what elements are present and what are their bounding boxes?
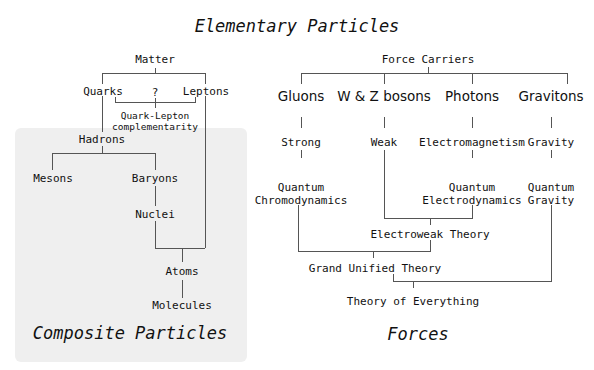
node-atoms: Atoms xyxy=(165,265,198,278)
node-qed-1: Quantum xyxy=(449,181,495,194)
note-complementarity-2: complementarity xyxy=(112,121,198,132)
node-hadrons: Hadrons xyxy=(79,133,125,146)
node-strong: Strong xyxy=(281,136,321,149)
node-qcd-1: Quantum xyxy=(278,181,324,194)
node-gut: Grand Unified Theory xyxy=(309,262,441,275)
node-quarks: Quarks xyxy=(83,85,123,98)
node-leptons: Leptons xyxy=(183,85,229,98)
composite-particles-title: Composite Particles xyxy=(33,323,227,343)
node-force-carriers: Force Carriers xyxy=(382,53,475,66)
node-gluons: Gluons xyxy=(278,88,325,104)
node-question: ? xyxy=(152,86,159,99)
node-weak: Weak xyxy=(371,136,398,149)
node-baryons: Baryons xyxy=(132,172,178,185)
node-electroweak: Electroweak Theory xyxy=(370,228,489,241)
node-electromagnetism: Electromagnetism xyxy=(419,136,525,149)
forces-title: Forces xyxy=(387,324,448,344)
node-nuclei: Nuclei xyxy=(135,208,175,221)
note-complementarity-1: Quark-Lepton xyxy=(121,110,190,121)
node-wz-bosons: W & Z bosons xyxy=(337,88,431,104)
elementary-particles-title: Elementary Particles xyxy=(195,16,400,36)
diagram-canvas: Elementary Particles Matter Quarks ? Lep… xyxy=(0,0,594,370)
node-toe: Theory of Everything xyxy=(347,295,479,308)
node-gravity: Gravity xyxy=(528,136,574,149)
node-matter: Matter xyxy=(135,53,175,66)
node-molecules: Molecules xyxy=(152,299,212,312)
node-gravitons: Gravitons xyxy=(518,88,583,104)
node-qg-2: Gravity xyxy=(528,194,574,207)
node-qg-1: Quantum xyxy=(528,181,574,194)
node-photons: Photons xyxy=(445,88,499,104)
node-mesons: Mesons xyxy=(33,172,73,185)
node-qed-2: Electrodynamics xyxy=(422,194,521,207)
node-qcd-2: Chromodynamics xyxy=(255,194,348,207)
